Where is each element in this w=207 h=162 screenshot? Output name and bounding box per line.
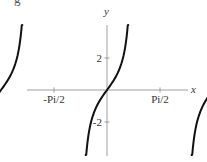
tangent-plot: -3Pi/2-Pi/2Pi/23Pi/2 2-2 x y: [0, 0, 207, 162]
y-tick-label: -2: [93, 116, 102, 128]
y-tick-label: 2: [97, 52, 103, 64]
y-axis-label: y: [103, 5, 109, 17]
x-tick-label: Pi/2: [151, 93, 169, 105]
tangent-branch: [0, 25, 22, 155]
x-axis-label: x: [190, 83, 196, 95]
x-tick-label: -Pi/2: [43, 93, 64, 105]
